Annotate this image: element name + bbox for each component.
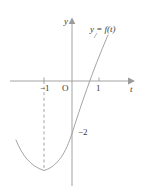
function-curve <box>16 35 108 171</box>
y-tick-label-neg-two: −2 <box>78 128 88 137</box>
y-axis <box>69 18 76 187</box>
curve-equation-label: y = f(t) <box>90 25 116 34</box>
graph-figure: y t y = f(t) −1 O 1 −2 <box>0 0 142 191</box>
t-axis-label: t <box>130 85 133 94</box>
x-tick-label-one: 1 <box>96 84 101 93</box>
y-axis-label: y <box>64 17 68 26</box>
graph-canvas <box>0 0 142 191</box>
t-axis <box>10 78 135 85</box>
x-tick-label-neg-one: −1 <box>40 84 50 93</box>
origin-label: O <box>62 84 69 93</box>
y-axis-arrowhead <box>69 18 76 25</box>
